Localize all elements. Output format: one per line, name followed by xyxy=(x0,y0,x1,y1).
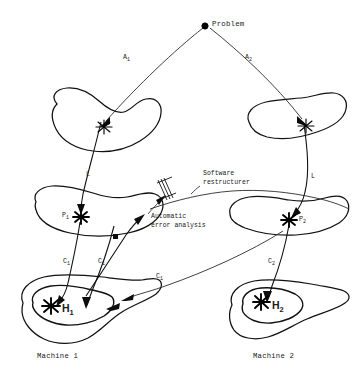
star-h2 xyxy=(253,294,270,310)
point-label-h2: H2 xyxy=(272,300,284,312)
edge-label-a1: A1 xyxy=(123,54,130,61)
annotation-automatic-error-analysis: Automaticerror analysis xyxy=(151,213,206,231)
star-p1 xyxy=(73,210,89,224)
blob-lower-left-outer xyxy=(22,275,162,344)
edge-label-c1-b-sub: 1 xyxy=(102,261,105,267)
edge-label-c2-sub: 2 xyxy=(272,261,275,267)
edge-label-a2-sub: 2 xyxy=(249,57,252,63)
point-label-p1-sub: 1 xyxy=(66,215,69,221)
caption-machine-left: Machine 1 xyxy=(37,352,78,360)
point-label-p1: P1 xyxy=(62,212,69,219)
problem-node-label: Problem xyxy=(212,20,244,28)
annotation-automatic-error-analysis-line1: Automatic xyxy=(151,213,206,222)
edge-l-left xyxy=(81,122,101,213)
edge-label-a2: A2 xyxy=(245,54,252,61)
edge-label-c1-a-sub: 1 xyxy=(67,261,70,267)
annotation-software-restructurer-line2: restructurer xyxy=(203,179,250,188)
point-label-h1-text: H xyxy=(62,302,70,314)
annotation-software-restructurer: Softwarerestructurer xyxy=(203,170,250,188)
arrowhead-c1-b xyxy=(82,297,91,309)
edge-label-c1-a: C1 xyxy=(63,258,70,265)
star-p2 xyxy=(281,213,297,227)
point-label-p2-sub: 2 xyxy=(303,219,306,225)
edge-label-c1-c-sub: 1 xyxy=(160,276,163,282)
edge-terminal-square xyxy=(113,234,118,239)
diagram-canvas xyxy=(0,0,362,373)
edge-label-c2: C2 xyxy=(268,258,275,265)
edge-c1-b xyxy=(87,226,114,305)
annotation-software-restructurer-line1: Software xyxy=(203,170,250,179)
problem-node-dot xyxy=(202,23,208,29)
blob-middle-left xyxy=(35,186,163,236)
point-label-h2-text: H xyxy=(272,299,280,311)
diagram-figure: Problem A1 A2 L L P1 P2 C1 C1 C1 C2 H1 H… xyxy=(0,0,362,373)
edge-label-a1-sub: 1 xyxy=(127,57,130,63)
blob-lower-right-outer xyxy=(230,280,349,339)
edge-a1 xyxy=(106,28,203,121)
arrowhead-c1-c xyxy=(121,294,134,301)
star-upper-left xyxy=(96,120,112,134)
edge-label-l-right: L xyxy=(311,173,315,180)
point-label-h1: H1 xyxy=(62,303,74,315)
caption-machine-right: Machine 2 xyxy=(253,352,294,360)
edge-label-c1-b: C1 xyxy=(98,258,105,265)
star-upper-right xyxy=(298,119,314,133)
leader-software-restructurer xyxy=(191,186,200,194)
blob-upper-right xyxy=(248,93,346,139)
annotation-automatic-error-analysis-line2: error analysis xyxy=(151,222,206,231)
point-label-h1-sub: 1 xyxy=(70,308,74,317)
point-label-p2: P2 xyxy=(299,216,306,223)
star-h1 xyxy=(42,298,60,314)
edge-label-c1-c: C1 xyxy=(156,273,163,280)
edge-label-l-left: L xyxy=(86,171,90,178)
point-label-h2-sub: 2 xyxy=(280,305,284,314)
